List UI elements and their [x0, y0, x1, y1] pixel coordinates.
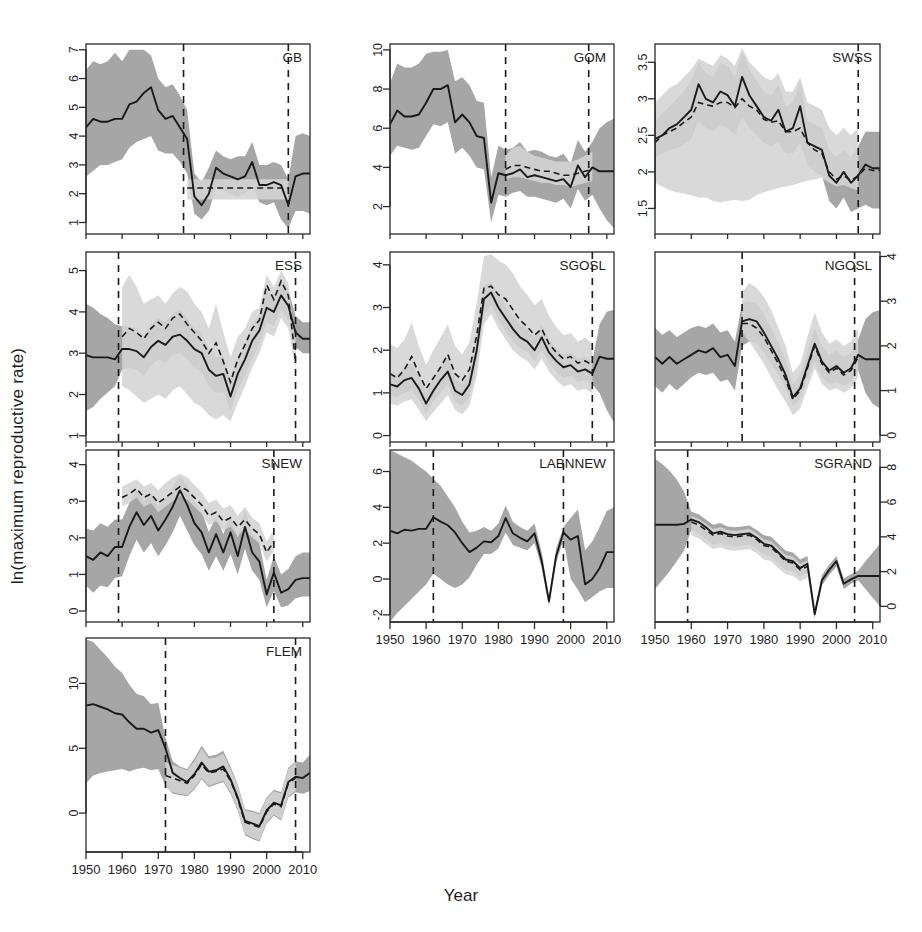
y-tick-label: 4 — [371, 504, 385, 511]
y-tick-label: 5 — [67, 745, 81, 752]
y-tick-label: 6 — [371, 468, 385, 475]
panel-label-swss: SWSS — [832, 50, 872, 65]
y-tick-label: 0 — [371, 432, 385, 439]
x-tick-label: 1990 — [216, 862, 245, 877]
panel-labnnew: -20246LABNNEW195019601970198019902000201… — [371, 450, 621, 647]
panel-snew: 01234SNEW — [67, 450, 310, 627]
panel-label-ngosl: NGOSL — [825, 258, 873, 273]
x-tick-label: 1990 — [786, 632, 815, 647]
y-tick-label: 4 — [67, 133, 81, 140]
y-tick-label: 2 — [885, 342, 899, 349]
x-tick-label: 1980 — [749, 632, 778, 647]
x-tick-label: 2000 — [556, 632, 585, 647]
y-tick-label: 1 — [885, 387, 899, 394]
panel-label-sgosl: SGOSL — [559, 258, 606, 273]
y-tick-label: 4 — [67, 308, 81, 315]
multi-panel-chart: 1234567GB246810GOM1.522.533.5SWSS12345ES… — [0, 0, 922, 932]
x-tick-label: 2010 — [858, 632, 887, 647]
y-tick-label: 8 — [885, 464, 899, 471]
panel-sgosl: 01234SGOSL — [371, 252, 614, 447]
y-tick-label: 3 — [67, 498, 81, 505]
y-tick-label: 6 — [371, 125, 385, 132]
y-tick-label: 2 — [371, 347, 385, 354]
y-tick-label: 0 — [885, 603, 899, 610]
x-axis-label: Year — [0, 886, 922, 906]
y-axis-label-text: ln(maximum reproductive rate) — [8, 348, 28, 584]
panel-flem: 0510FLEM1950196019701980199020002010 — [67, 638, 317, 877]
x-tick-label: 1950 — [72, 862, 101, 877]
panel-swss: 1.522.533.5SWSS — [636, 44, 880, 239]
y-tick-label: 3 — [67, 161, 81, 168]
x-tick-label: 1970 — [144, 862, 173, 877]
y-tick-label: 0 — [371, 575, 385, 582]
panel-label-flem: FLEM — [266, 644, 302, 659]
y-tick-label: 2.5 — [636, 127, 650, 144]
x-tick-label: 1960 — [108, 862, 137, 877]
y-tick-label: 0 — [67, 810, 81, 817]
y-tick-label: 8 — [371, 86, 385, 93]
y-tick-label: 2 — [67, 534, 81, 541]
y-tick-label: 4 — [371, 261, 385, 268]
y-tick-label: 6 — [885, 499, 899, 506]
x-tick-label: 1980 — [180, 862, 209, 877]
y-tick-label: 0 — [885, 432, 899, 439]
y-tick-label: 10 — [67, 676, 81, 690]
y-tick-label: 5 — [67, 267, 81, 274]
panel-ess: 12345ESS — [67, 252, 310, 447]
x-tick-label: 2010 — [592, 632, 621, 647]
y-tick-label: 4 — [67, 461, 81, 468]
y-tick-label: 2 — [67, 190, 81, 197]
y-tick-label: 1 — [67, 219, 81, 226]
y-axis-label: ln(maximum reproductive rate) — [2, 0, 34, 932]
y-tick-label: 2 — [636, 168, 650, 175]
y-tick-label: 3 — [371, 304, 385, 311]
x-tick-label: 1960 — [677, 632, 706, 647]
y-tick-label: 0 — [67, 607, 81, 614]
panel-label-labnnew: LABNNEW — [539, 456, 606, 471]
y-tick-label: -2 — [371, 609, 385, 620]
y-tick-label: 2 — [371, 203, 385, 210]
x-tick-label: 1950 — [376, 632, 405, 647]
panel-sgrand: 02468SGRAND1950196019701980199020002010 — [641, 450, 899, 647]
y-tick-label: 2 — [67, 391, 81, 398]
y-tick-label: 2 — [885, 568, 899, 575]
y-tick-label: 1 — [67, 571, 81, 578]
y-tick-label: 4 — [885, 253, 899, 260]
y-tick-label: 10 — [371, 43, 385, 57]
y-tick-label: 3.5 — [636, 54, 650, 71]
x-tick-label: 2010 — [288, 862, 317, 877]
y-tick-label: 3 — [885, 298, 899, 305]
x-tick-label: 1970 — [448, 632, 477, 647]
panel-label-gom: GOM — [574, 50, 606, 65]
panel-label-snew: SNEW — [262, 456, 303, 471]
panel-gb: 1234567GB — [67, 44, 310, 239]
x-tick-label: 2000 — [252, 862, 281, 877]
y-tick-label: 2 — [371, 540, 385, 547]
y-tick-label: 1.5 — [636, 200, 650, 217]
panel-ngosl: 01234NGOSL — [655, 252, 899, 447]
x-tick-label: 1990 — [520, 632, 549, 647]
y-tick-label: 3 — [636, 95, 650, 102]
y-tick-label: 4 — [885, 533, 899, 540]
y-tick-label: 5 — [67, 104, 81, 111]
y-tick-label: 6 — [67, 75, 81, 82]
y-tick-label: 1 — [67, 432, 81, 439]
y-tick-label: 7 — [67, 46, 81, 53]
x-tick-label: 1950 — [641, 632, 670, 647]
x-tick-label: 1970 — [713, 632, 742, 647]
panel-label-ess: ESS — [275, 258, 302, 273]
x-tick-label: 1960 — [412, 632, 441, 647]
y-tick-label: 4 — [371, 164, 385, 171]
panel-gom: 246810GOM — [371, 43, 614, 239]
y-tick-label: 3 — [67, 350, 81, 357]
panel-label-gb: GB — [282, 50, 302, 65]
panel-label-sgrand: SGRAND — [814, 456, 872, 471]
x-axis-label-text: Year — [444, 886, 478, 905]
x-tick-label: 1980 — [484, 632, 513, 647]
y-tick-label: 1 — [371, 389, 385, 396]
x-tick-label: 2000 — [822, 632, 851, 647]
